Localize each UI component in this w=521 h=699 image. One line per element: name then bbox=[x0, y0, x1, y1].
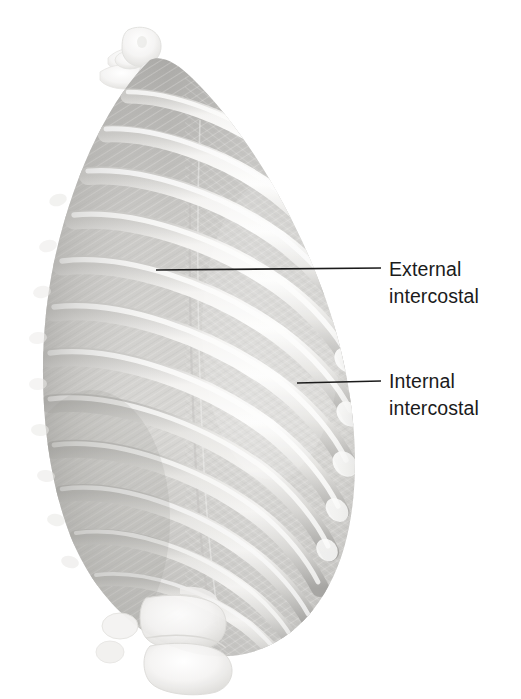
figure-root: External intercostal Internal intercosta… bbox=[0, 0, 521, 699]
label-internal-line-1: Internal bbox=[389, 368, 479, 395]
label-external-line-2: intercostal bbox=[389, 283, 479, 310]
lumbar-transverse-process bbox=[102, 613, 138, 639]
label-external-line-1: External bbox=[389, 256, 479, 283]
label-external-intercostal: External intercostal bbox=[389, 256, 479, 309]
label-internal-line-2: intercostal bbox=[389, 395, 479, 422]
label-internal-intercostal: Internal intercostal bbox=[389, 368, 479, 421]
rib-cage-illustration bbox=[0, 0, 521, 699]
lumbar-body-1 bbox=[140, 595, 226, 650]
lumbar-body-2 bbox=[144, 643, 232, 694]
